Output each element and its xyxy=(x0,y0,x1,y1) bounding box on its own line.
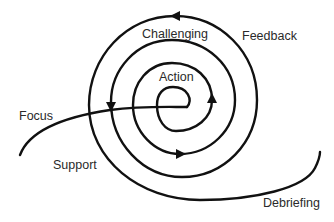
arrow-up-icon xyxy=(207,93,217,103)
arrow-right-icon xyxy=(176,149,186,159)
label-support: Support xyxy=(53,159,97,172)
label-debriefing: Debriefing xyxy=(263,197,320,210)
arrow-left-icon xyxy=(170,11,180,21)
label-action: Action xyxy=(159,71,194,84)
label-challenging: Challenging xyxy=(142,28,208,41)
label-focus: Focus xyxy=(19,110,53,123)
label-feedback: Feedback xyxy=(242,30,297,43)
